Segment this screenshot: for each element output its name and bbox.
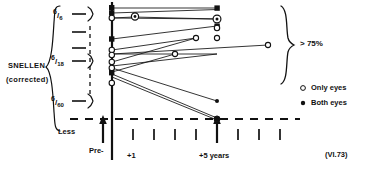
figure-canvas: SNELLEN (corrected) 6/6 6/18 6/60 Less P… (0, 0, 376, 170)
y-tick-marks (72, 14, 86, 101)
legend-label-only-eyes: Only eyes (311, 84, 346, 92)
y-tick-label-6-6: 6/6 (53, 8, 62, 21)
figure-citation: (VI.73) (325, 151, 348, 159)
x-label-plus-five-years: +5 years (199, 152, 229, 160)
y-tick-label-less: Less (58, 128, 75, 136)
legend-label-both-eyes: Both eyes (311, 99, 347, 107)
legend-markers (301, 86, 306, 106)
trajectory-lines (112, 8, 268, 120)
y-tick-label-6-18: 6/18 (51, 54, 64, 67)
y-tick-label-6-60: 6/60 (51, 95, 64, 108)
percentage-brace (281, 6, 294, 84)
x-tick-marks (133, 129, 280, 140)
x-label-plus-one: +1 (127, 152, 136, 160)
x-label-pre-op: Pre- (89, 147, 104, 155)
y-axis-title-secondary: (corrected) (6, 76, 48, 84)
snellen-outer-brace (46, 6, 60, 131)
y-axis-title-primary: SNELLEN (8, 62, 45, 70)
five-year-markers (193, 5, 270, 121)
percentage-brace-label: > 75% (300, 40, 323, 48)
